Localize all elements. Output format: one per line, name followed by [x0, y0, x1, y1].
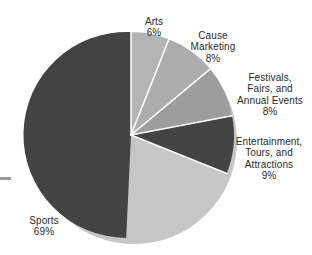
pie-label-cause-marketing-name: Cause Marketing: [191, 30, 236, 53]
pie-chart-figure: Arts 6% Cause Marketing 8% Festivals, Fa…: [0, 0, 312, 255]
pie-label-entertainment-name: Entertainment, Tours, and Attractions: [236, 136, 302, 170]
pie-label-festivals: Festivals, Fairs, and Annual Events 8%: [232, 60, 308, 130]
pie-label-arts-name: Arts: [145, 16, 163, 27]
pie-label-entertainment: Entertainment, Tours, and Attractions 9%: [228, 124, 310, 194]
pie-label-arts: Arts 6%: [128, 4, 180, 50]
page-edge-mark: [0, 177, 11, 180]
pie-label-festivals-name: Festivals, Fairs, and Annual Events: [237, 72, 303, 106]
pie-label-sports: Sports 69%: [14, 203, 74, 249]
pie-label-festivals-value: 8%: [232, 106, 308, 118]
pie-label-arts-value: 6%: [128, 27, 180, 39]
pie-label-entertainment-value: 9%: [228, 170, 310, 182]
pie-label-sports-value: 69%: [14, 226, 74, 238]
pie-label-sports-name: Sports: [29, 215, 59, 226]
